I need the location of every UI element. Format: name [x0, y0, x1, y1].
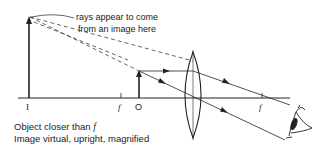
image-label: I [26, 102, 29, 112]
caption-focal-symbol: f [93, 122, 96, 132]
ray-parallel-arrow-icon [163, 69, 170, 74]
ray-central-arrow-icon-1 [158, 78, 166, 84]
focal-left-label: f [118, 102, 121, 112]
ray-parallel-refracted [193, 71, 290, 105]
annotation-text-line2: from an image here [78, 24, 156, 34]
ray-refracted-arrow-icon [222, 78, 230, 84]
eye-icon [286, 105, 312, 138]
converging-lens-virtual-image-diagram: rays appear to come from an image here I… [0, 0, 331, 157]
ray-central-arrow-icon-2 [220, 107, 228, 113]
object-label: O [135, 102, 142, 112]
focal-right-label: f [259, 102, 262, 112]
annotation-text-line1: rays appear to come [76, 12, 158, 22]
annotation-leader-line [31, 15, 74, 18]
caption-line1: Object closer than f [14, 121, 96, 133]
caption-line2: Image virtual, upright, magnified [14, 133, 149, 145]
caption-line1-text: Object closer than [14, 121, 93, 132]
